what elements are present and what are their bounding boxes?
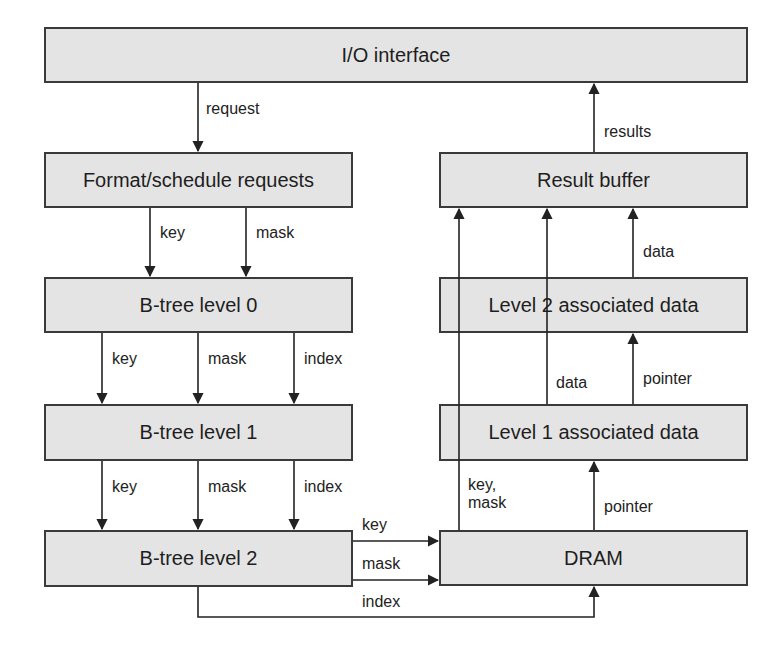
level1-assoc-data-label: Level 1 associated data bbox=[488, 421, 698, 444]
btree-level2-box: B-tree level 2 bbox=[44, 530, 353, 587]
dram-box: DRAM bbox=[439, 530, 748, 586]
results-label: results bbox=[604, 123, 651, 141]
dram-label: DRAM bbox=[564, 547, 623, 570]
btree-level1-label: B-tree level 1 bbox=[140, 421, 258, 444]
b1-mask-label: mask bbox=[208, 478, 246, 496]
dram-keymask-label: key, mask bbox=[468, 476, 506, 512]
result-buffer-label: Result buffer bbox=[537, 169, 650, 192]
b0-key-label: key bbox=[112, 350, 137, 368]
b2-mask-label: mask bbox=[362, 555, 400, 573]
l2-data-label: data bbox=[643, 243, 674, 261]
l1-pointer-label: pointer bbox=[643, 370, 692, 388]
b2-index-label: index bbox=[362, 593, 400, 611]
level2-assoc-data-box: Level 2 associated data bbox=[439, 277, 748, 333]
result-buffer-box: Result buffer bbox=[439, 152, 748, 208]
b2-key-label: key bbox=[362, 516, 387, 534]
btree-level2-label: B-tree level 2 bbox=[140, 547, 258, 570]
io-interface-label: I/O interface bbox=[342, 44, 451, 67]
btree-level1-box: B-tree level 1 bbox=[44, 404, 353, 461]
request-label: request bbox=[206, 100, 259, 118]
l1-data-label: data bbox=[556, 374, 587, 392]
fmt-mask-label: mask bbox=[256, 224, 294, 242]
btree-level0-box: B-tree level 0 bbox=[44, 277, 353, 333]
format-schedule-label: Format/schedule requests bbox=[83, 169, 314, 192]
io-interface-box: I/O interface bbox=[44, 27, 748, 83]
level1-assoc-data-box: Level 1 associated data bbox=[439, 404, 748, 461]
dram-pointer-label: pointer bbox=[604, 498, 653, 516]
format-schedule-box: Format/schedule requests bbox=[44, 152, 353, 208]
fmt-key-label: key bbox=[160, 224, 185, 242]
btree-level0-label: B-tree level 0 bbox=[140, 294, 258, 317]
b1-index-label: index bbox=[304, 478, 342, 496]
b0-mask-label: mask bbox=[208, 350, 246, 368]
b1-key-label: key bbox=[112, 478, 137, 496]
level2-assoc-data-label: Level 2 associated data bbox=[488, 294, 698, 317]
b0-index-label: index bbox=[304, 350, 342, 368]
